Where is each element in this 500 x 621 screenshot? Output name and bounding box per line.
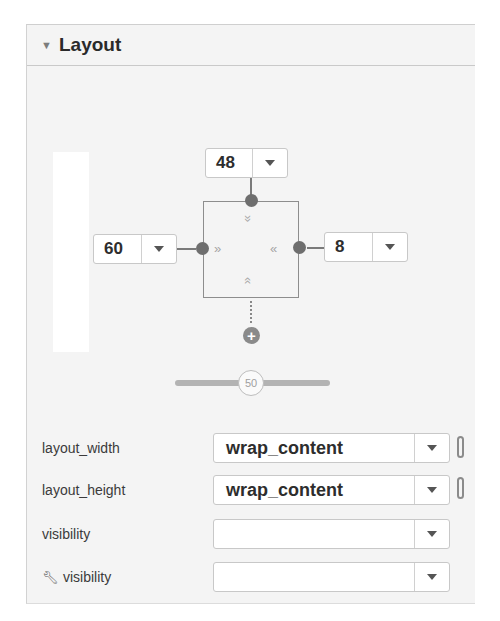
add-bottom-constraint-icon[interactable]: + — [243, 327, 260, 344]
left-margin-combo[interactable]: 60 — [93, 234, 177, 264]
layout-width-dropdown-button[interactable] — [414, 434, 449, 462]
layout-attributes-panel: ▼ Layout 48 60 8 » » « « + 50 layout_wid… — [26, 24, 475, 604]
right-margin-dropdown-button[interactable] — [372, 233, 407, 261]
chevron-down-icon — [427, 574, 437, 580]
section-header[interactable]: ▼ Layout — [27, 25, 475, 66]
left-wrap-chevrons-icon: » — [214, 242, 219, 255]
layout-width-value[interactable]: wrap_content — [214, 434, 414, 462]
chevron-down-icon — [427, 445, 437, 451]
right-margin-value[interactable]: 8 — [325, 233, 372, 261]
chevron-down-icon — [427, 487, 437, 493]
visibility-combo[interactable] — [213, 519, 450, 549]
layout-width-combo[interactable]: wrap_content — [213, 433, 450, 463]
right-wrap-chevrons-icon: « — [270, 242, 275, 255]
top-constraint-handle[interactable] — [245, 194, 258, 207]
left-constraint-line — [177, 248, 196, 250]
right-margin-combo[interactable]: 8 — [324, 232, 408, 262]
left-margin-value[interactable]: 60 — [94, 235, 141, 263]
bottom-wrap-chevrons-icon: « — [242, 277, 255, 282]
right-constraint-handle[interactable] — [293, 241, 306, 254]
tools-visibility-dropdown-button[interactable] — [414, 563, 449, 591]
tools-visibility-combo[interactable] — [213, 562, 450, 592]
bottom-constraint-dotted-line — [250, 301, 252, 323]
tools-visibility-value[interactable] — [214, 563, 414, 591]
chevron-down-icon — [427, 531, 437, 537]
top-wrap-chevrons-icon: » — [242, 215, 255, 220]
bias-slider-thumb[interactable]: 50 — [238, 370, 264, 396]
prop-label-tools-visibility: 🔧︎visibility — [42, 569, 111, 585]
collapse-triangle-icon[interactable]: ▼ — [41, 39, 53, 51]
tools-visibility-label: visibility — [63, 569, 111, 585]
layout-height-combo[interactable]: wrap_content — [213, 475, 450, 505]
link-icon[interactable] — [457, 477, 464, 499]
left-constraint-handle[interactable] — [196, 242, 209, 255]
prop-label-layout-width: layout_width — [42, 440, 120, 456]
top-margin-value[interactable]: 48 — [206, 149, 252, 177]
top-constraint-line — [250, 178, 252, 195]
chevron-down-icon — [154, 246, 164, 252]
section-title: Layout — [59, 34, 121, 56]
top-margin-combo[interactable]: 48 — [205, 148, 288, 178]
top-margin-dropdown-button[interactable] — [252, 149, 287, 177]
left-margin-dropdown-button[interactable] — [141, 235, 176, 263]
visibility-dropdown-button[interactable] — [414, 520, 449, 548]
right-constraint-line — [307, 247, 324, 249]
wrench-icon: 🔧︎ — [42, 570, 59, 585]
visibility-value[interactable] — [214, 520, 414, 548]
view-preview-strip — [53, 152, 89, 352]
prop-label-layout-height: layout_height — [42, 482, 125, 498]
chevron-down-icon — [265, 160, 275, 166]
layout-height-value[interactable]: wrap_content — [214, 476, 414, 504]
prop-label-visibility: visibility — [42, 526, 90, 542]
link-icon[interactable] — [457, 436, 464, 458]
chevron-down-icon — [385, 244, 395, 250]
layout-height-dropdown-button[interactable] — [414, 476, 449, 504]
